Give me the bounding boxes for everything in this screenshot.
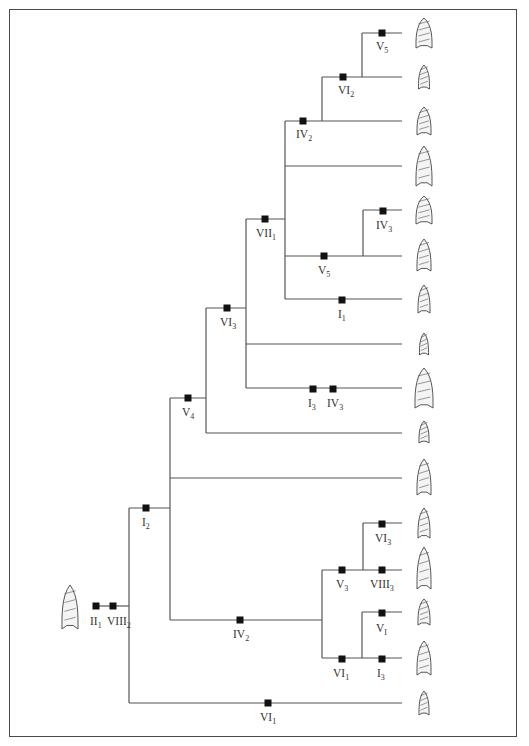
character-label: I3 [308,397,316,412]
character-mark [379,30,386,37]
character-mark [321,253,328,260]
projectile-point-8 [419,333,428,355]
projectile-point-14 [418,599,430,625]
projectile-point-1 [416,18,432,48]
character-mark [380,208,387,215]
character-mark [143,505,150,512]
character-mark [379,521,386,528]
character-label: I1 [338,308,346,323]
projectile-point-4 [416,146,432,186]
character-label: VI3 [375,532,391,547]
character-marks [93,30,387,707]
character-label: IV2 [233,628,249,643]
character-mark [185,395,192,402]
character-mark [265,700,272,707]
projectile-point-16 [419,691,429,715]
character-label: VIII3 [370,578,394,593]
character-mark [262,216,269,223]
cladogram-branches [96,33,402,703]
character-mark [237,617,244,624]
character-mark [339,567,346,574]
projectile-point-6 [417,239,431,271]
character-mark [330,386,337,393]
character-label: IV3 [327,397,343,412]
projectile-point-11 [417,459,431,495]
character-mark [379,656,386,663]
character-mark [224,305,231,312]
character-label: V3 [336,578,348,593]
character-label: VI1 [333,667,349,682]
character-mark [379,610,386,617]
character-label: VI [376,622,387,637]
character-label: VIII2 [107,615,131,630]
character-label: V5 [376,40,388,55]
character-mark [110,603,117,610]
character-label: I3 [377,667,385,682]
character-label: VI1 [260,711,276,726]
character-mark [379,567,386,574]
character-mark [310,386,317,393]
character-mark [339,656,346,663]
projectile-point-illustrations [62,18,433,715]
projectile-point-13 [417,547,431,589]
projectile-point-10 [419,421,429,443]
character-mark [93,603,100,610]
character-label: I2 [142,516,150,531]
projectile-point-9 [415,368,433,408]
character-mark [339,297,346,304]
character-label: V5 [318,264,330,279]
character-mark [300,118,307,125]
character-label: V4 [182,406,194,421]
character-mark [340,74,347,81]
projectile-point-5 [416,196,432,224]
projectile-point-7 [418,285,430,313]
projectile-point-2 [418,65,429,89]
character-label: II1 [90,615,102,630]
character-label: VI3 [220,316,236,331]
cladogram: V5VI2IV2VII1IV3V5I1VI3I3IV3V4I2VI3V3VIII… [0,0,529,746]
projectile-point-15 [417,641,431,675]
character-label: VI2 [338,84,354,99]
character-label: VII1 [256,227,276,242]
projectile-point-12 [418,508,430,538]
outgroup-projectile-point [62,585,78,629]
projectile-point-3 [417,107,431,135]
character-label: IV2 [296,128,312,143]
character-label: IV3 [376,219,392,234]
